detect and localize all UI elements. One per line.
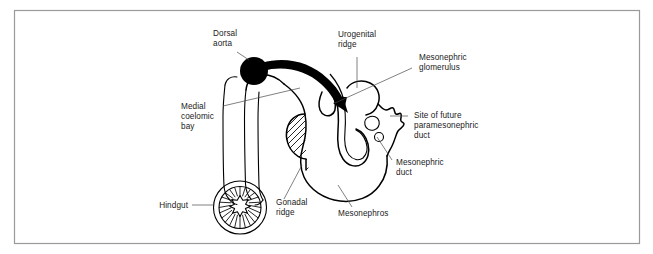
label-mesonephric-duct: Mesonephric duct (396, 158, 444, 177)
mesentery-right-wall (258, 92, 263, 200)
leader-mesonephric-glomerulus (335, 68, 412, 103)
medial-coelomic-bay-left-curl (225, 77, 237, 85)
gonadal-ridge-hatching (280, 108, 312, 176)
label-mesonephric-duct-line-1: Mesonephric (396, 158, 444, 167)
label-dorsal-aorta-line-2: aorta (213, 39, 232, 48)
hindgut-radial-spokes (219, 187, 261, 229)
label-mesonephric-glomerulus-line-1: Mesonephric (419, 53, 467, 62)
leader-mesonephric-duct (377, 137, 392, 160)
migration-arrow-shaft (262, 60, 345, 107)
label-site-paramesonephric-duct-line-1: Site of future (414, 111, 462, 120)
label-site-paramesonephric-duct-line-2: paramesonephric (414, 121, 478, 130)
label-mesonephros-line-1: Mesonephros (338, 209, 389, 218)
label-dorsal-aorta-line-1: Dorsal (213, 29, 237, 38)
figure-frame (15, 11, 640, 244)
label-dorsal-aorta: Dorsal aorta (213, 29, 237, 48)
leader-mesonephros (338, 185, 352, 207)
medial-coelomic-bay-left-wall (223, 85, 229, 199)
label-gonadal-ridge-line-1: Gonadal (276, 198, 308, 207)
label-medial-coelomic-bay-line-2: coelomic (181, 112, 214, 121)
label-medial-coelomic-bay-line-3: bay (181, 122, 195, 131)
label-urogenital-ridge-line-1: Urogenital (338, 30, 376, 39)
label-hindgut-line-1: Hindgut (159, 201, 188, 210)
label-gonadal-ridge: Gonadal ridge (276, 198, 308, 217)
hindgut-structure (214, 181, 267, 234)
label-gonadal-ridge-line-2: ridge (276, 208, 295, 217)
scalloped-lateral-border (378, 104, 404, 156)
label-site-paramesonephric-duct-line-3: duct (414, 131, 430, 140)
anatomical-diagram-svg: Dorsal aorta Urogenital ridge Mesonephri… (0, 0, 653, 254)
figure-root: Dorsal aorta Urogenital ridge Mesonephri… (0, 0, 653, 254)
leader-medial-coelomic-bay (223, 88, 300, 106)
paramesonephric-duct-vesicle (365, 116, 380, 130)
label-mesonephric-glomerulus: Mesonephric glomerulus (419, 53, 467, 72)
label-medial-coelomic-bay: Medial coelomic bay (181, 102, 214, 131)
dorsal-aorta-circle (240, 57, 268, 85)
label-medial-coelomic-bay-line-1: Medial (181, 102, 206, 111)
mesonephric-tubule-lumen (343, 97, 367, 160)
label-site-of-future-paramesonephric-duct: Site of future paramesonephric duct (414, 111, 478, 140)
label-urogenital-ridge: Urogenital ridge (338, 30, 376, 49)
label-mesonephros: Mesonephros (338, 209, 389, 218)
mesonephric-glomerulus-loop (347, 81, 379, 115)
label-hindgut: Hindgut (159, 201, 188, 210)
leader-dorsal-aorta (237, 52, 249, 60)
label-urogenital-ridge-line-2: ridge (338, 40, 357, 49)
label-mesonephric-glomerulus-line-2: glomerulus (419, 63, 460, 72)
label-mesonephric-duct-line-2: duct (396, 168, 412, 177)
leader-gonadal-ridge (284, 165, 302, 199)
